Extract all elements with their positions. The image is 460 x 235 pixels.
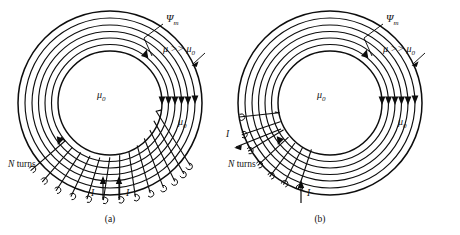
panel-b-current-in-label: I: [225, 129, 230, 139]
panel-a-caption: (a): [105, 214, 116, 225]
toroid-diagram-svg: Ψm μ >> μ0 μ0 μ0 N turns I I (a): [0, 0, 460, 235]
panel-b-flux-label: Ψm: [386, 13, 398, 27]
panel-a-flux-label: Ψm: [166, 13, 178, 27]
panel-b-turns-label: N turns: [227, 159, 256, 169]
panel-a-mu-inner-label: μ0: [96, 89, 106, 103]
panel-a-winding-inner-ticks: [61, 110, 161, 141]
figure-root: Ψm μ >> μ0 μ0 μ0 N turns I I (a): [0, 0, 460, 235]
panel-a: Ψm μ >> μ0 μ0 μ0 N turns I I (a): [7, 11, 205, 225]
panel-b-caption: (b): [314, 214, 325, 225]
panel-b-winding-inner-ticks: [275, 112, 279, 113]
panel-b-mu-outer-label: μ0: [397, 116, 407, 130]
panel-b-mu-core-label: μ >> μ0: [382, 43, 416, 57]
panel-a-mu-outer-label: μ0: [177, 116, 187, 130]
panel-a-turns-label: N turns: [7, 159, 36, 169]
panel-b: Ψm μ >> μ0 μ0 μ0 I N turns I (b): [225, 11, 425, 225]
panel-b-mu-inner-label: μ0: [316, 89, 326, 103]
panel-a-mu-core-label: μ >> μ0: [162, 43, 196, 57]
